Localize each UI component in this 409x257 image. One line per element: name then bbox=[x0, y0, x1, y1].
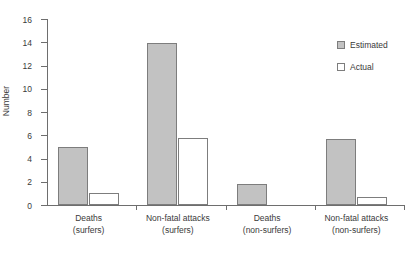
legend-item-actual: Actual bbox=[337, 60, 388, 73]
x-tick bbox=[315, 205, 316, 210]
y-tick-label: 4 bbox=[0, 154, 38, 164]
y-tick-label: 10 bbox=[0, 84, 38, 94]
y-tick-label: 2 bbox=[0, 177, 38, 187]
bar-chart: Number 0246810121416 Deaths(surfers)Non-… bbox=[0, 0, 409, 257]
y-axis-title: Number bbox=[1, 71, 11, 131]
y-tick-label: 12 bbox=[0, 61, 38, 71]
x-tick bbox=[404, 205, 405, 210]
y-tick-label: 6 bbox=[0, 131, 38, 141]
bar-actual bbox=[89, 193, 119, 205]
x-label-line1: Deaths bbox=[75, 213, 102, 223]
y-tick-label: 14 bbox=[0, 38, 38, 48]
y-tick-label: 16 bbox=[0, 15, 38, 25]
legend-label-estimated: Estimated bbox=[350, 40, 388, 50]
x-label-line1: Non-fatal attacks bbox=[324, 213, 388, 223]
y-tick bbox=[41, 205, 47, 206]
bar-estimated bbox=[147, 43, 177, 205]
legend-swatch-estimated bbox=[337, 41, 345, 49]
y-tick-label: 0 bbox=[0, 201, 38, 211]
x-axis-category-label: Non-fatal attacks(non-surfers) bbox=[301, 213, 409, 236]
bar-estimated bbox=[326, 139, 356, 205]
legend-label-actual: Actual bbox=[350, 62, 374, 72]
x-label-line2: (non-surfers) bbox=[301, 225, 409, 237]
bar-actual bbox=[178, 138, 208, 205]
x-tick bbox=[136, 205, 137, 210]
x-tick bbox=[226, 205, 227, 210]
x-label-line1: Deaths bbox=[254, 213, 281, 223]
bar-actual bbox=[357, 197, 387, 205]
legend-item-estimated: Estimated bbox=[337, 38, 388, 51]
y-tick-label: 8 bbox=[0, 108, 38, 118]
chart-legend: Estimated Actual bbox=[337, 38, 388, 82]
legend-swatch-actual bbox=[337, 63, 345, 71]
bar-estimated bbox=[237, 184, 267, 205]
bar-estimated bbox=[58, 147, 88, 205]
x-label-line1: Non-fatal attacks bbox=[146, 213, 210, 223]
